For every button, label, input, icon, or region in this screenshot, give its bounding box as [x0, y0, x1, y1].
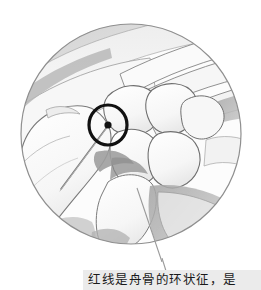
triquetrum-bone	[148, 132, 200, 188]
figure-page: 红线是舟骨的环状征，是	[0, 0, 261, 290]
illustration-container	[0, 0, 261, 262]
illustration-content	[0, 0, 261, 262]
hypothenar-shadow-wedge	[44, 217, 95, 258]
figure-caption-bar: 红线是舟骨的环状征，是	[83, 270, 261, 290]
figure-caption-text: 红线是舟骨的环状征，是	[83, 270, 237, 290]
trapezoid-bone	[181, 96, 224, 139]
carpal-bones-ring-sign-illustration	[0, 0, 261, 262]
thenar-bone-overlay	[158, 192, 248, 250]
ring-sign-center-dot	[104, 121, 111, 128]
